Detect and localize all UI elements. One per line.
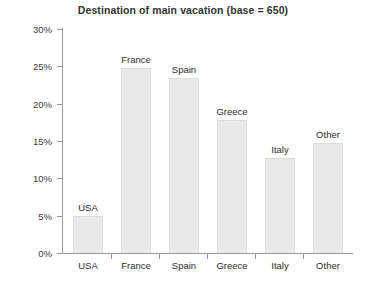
x-axis-tick (111, 254, 112, 259)
bar-spain[interactable] (169, 78, 199, 253)
bar-other[interactable] (313, 143, 343, 253)
y-axis-tick-label: 30% (6, 25, 52, 35)
bar-france[interactable] (121, 68, 151, 253)
bar-label-italy: Italy (250, 145, 310, 155)
y-axis-tick-label: 10% (6, 174, 52, 184)
bar-label-usa: USA (58, 203, 118, 213)
y-axis-tick-label: 5% (6, 212, 52, 222)
bar-chart: Destination of main vacation (base = 650… (0, 0, 366, 288)
bar-label-other: Other (298, 130, 358, 140)
bar-label-france: France (106, 55, 166, 65)
bar-label-spain: Spain (154, 65, 214, 75)
x-axis-tick (303, 254, 304, 259)
chart-title: Destination of main vacation (base = 650… (0, 4, 366, 16)
x-axis-label-other: Other (296, 261, 360, 271)
y-axis-tick-label: 0% (6, 249, 52, 259)
x-axis-tick (207, 254, 208, 259)
bar-greece[interactable] (217, 120, 247, 253)
bar-label-greece: Greece (202, 107, 262, 117)
bar-italy[interactable] (265, 158, 295, 253)
y-axis-tick (57, 253, 63, 254)
y-axis-tick-label: 25% (6, 62, 52, 72)
y-axis-tick-label: 20% (6, 100, 52, 110)
x-axis-tick (159, 254, 160, 259)
bar-usa[interactable] (73, 216, 103, 253)
y-axis-tick-label: 15% (6, 137, 52, 147)
x-axis-tick (255, 254, 256, 259)
